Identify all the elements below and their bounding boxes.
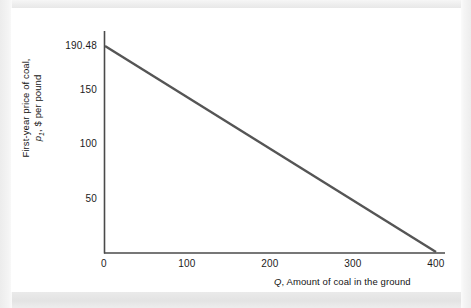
y-axis-title: First-year price of coal, p1, $ per poun…: [20, 33, 48, 183]
x-tick-label-100: 100: [167, 258, 207, 269]
y-axis-title-units: , $ per pound: [32, 75, 43, 132]
x-tick-label-200: 200: [250, 258, 290, 269]
x-axis-title: Q, Amount of coal in the ground: [274, 276, 411, 287]
y-axis-title-subscript: 1: [38, 132, 45, 136]
demand-curve-line: [105, 46, 436, 252]
scan-edge-bottom: [0, 292, 471, 308]
x-tick-label-0: 0: [84, 258, 124, 269]
x-tick-label-300: 300: [333, 258, 373, 269]
x-tick-label-400: 400: [416, 258, 456, 269]
y-axis-title-line1: First-year price of coal,: [20, 58, 31, 157]
x-axis-title-symbol: Q: [274, 276, 282, 287]
figure-container: 190.48 150 100 50 0 100 200 300 400 Firs…: [0, 0, 471, 308]
y-axis-title-line2: p1, $ per pound: [32, 33, 48, 183]
scan-edge-right: [461, 0, 471, 308]
y-tick-label-50: 50: [39, 193, 97, 204]
figure-page: 190.48 150 100 50 0 100 200 300 400 Firs…: [11, 8, 461, 292]
y-axis-title-symbol: p: [32, 136, 43, 141]
x-axis-title-text: , Amount of coal in the ground: [282, 276, 411, 287]
